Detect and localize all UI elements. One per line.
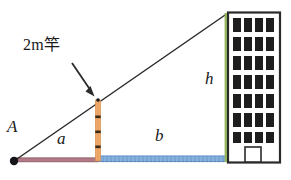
vertex-a-dot (10, 157, 18, 165)
building (228, 13, 280, 163)
pole-annotation-label: 2m竿 (23, 37, 60, 53)
ground-segment-b (98, 156, 228, 163)
pointer-arrow-icon (72, 63, 95, 97)
figure-container: 2m竿 A a b h (0, 0, 291, 180)
measuring-pole (95, 98, 100, 161)
vertex-a-label: A (7, 118, 17, 135)
diagram-canvas (0, 0, 291, 180)
segment-b-label: b (155, 127, 164, 144)
segment-a-label: a (57, 130, 66, 147)
building-door (245, 147, 261, 162)
ground-segment-a (14, 158, 98, 163)
height-h-label: h (205, 70, 214, 87)
